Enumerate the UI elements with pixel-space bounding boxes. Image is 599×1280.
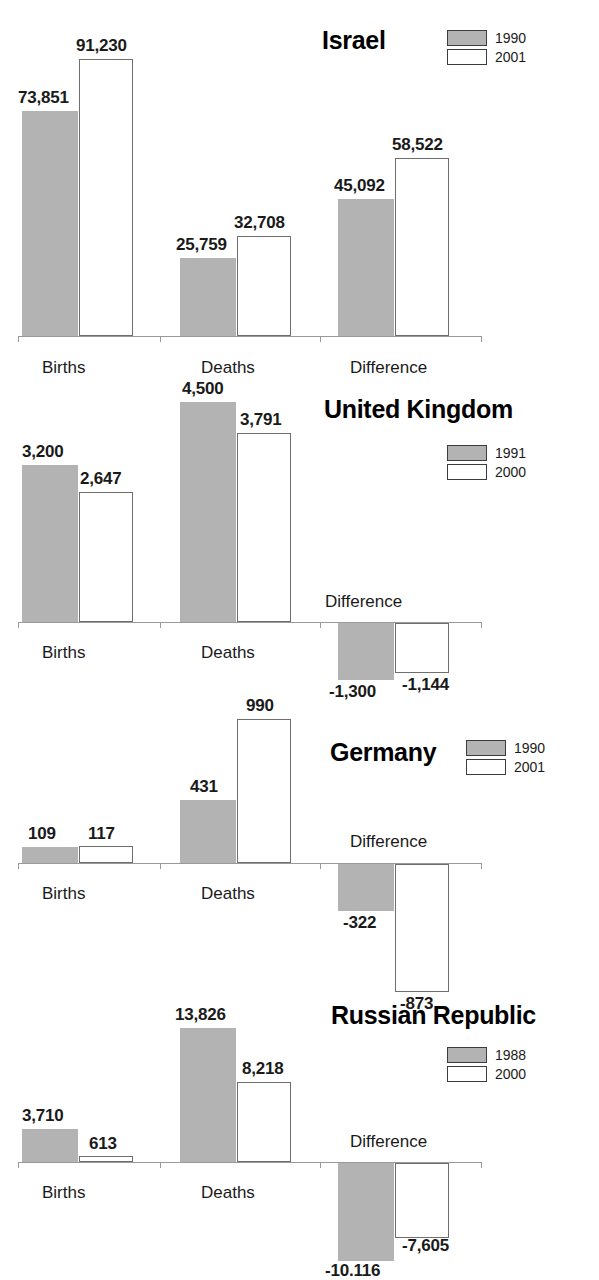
value-label-deaths-series-b: 32,708 bbox=[234, 213, 285, 232]
value-label-deaths-series-b: 8,218 bbox=[242, 1059, 284, 1078]
legend-swatch-series-a-icon bbox=[447, 1047, 487, 1063]
difference-inline-label: Difference bbox=[350, 832, 427, 852]
panel-title-israel: Israel bbox=[322, 26, 386, 54]
bar-deaths-series-a bbox=[180, 800, 236, 863]
legend-swatch-series-a-icon bbox=[447, 445, 487, 461]
axis-tick bbox=[160, 1162, 161, 1168]
difference-inline-label: Difference bbox=[325, 592, 402, 612]
panel-title-germany: Germany bbox=[330, 738, 436, 766]
legend-row: 1988 bbox=[447, 1045, 526, 1064]
category-label-births: Births bbox=[42, 643, 85, 663]
legend-swatch-series-b-icon bbox=[447, 464, 487, 480]
legend-swatch-series-a-icon bbox=[447, 30, 487, 46]
legend-swatch-series-b-icon bbox=[447, 1066, 487, 1082]
axis-tick bbox=[481, 622, 482, 628]
value-label-births-series-a: 73,851 bbox=[18, 88, 69, 107]
category-label-deaths: Deaths bbox=[201, 884, 255, 904]
bar-deaths-series-a bbox=[180, 1028, 236, 1162]
axis-tick bbox=[320, 863, 321, 869]
bar-births-series-b bbox=[79, 846, 133, 863]
legend-swatch-series-b-icon bbox=[466, 759, 506, 775]
axis-tick bbox=[481, 336, 482, 342]
bar-deaths-series-b bbox=[237, 236, 291, 336]
axis-tick bbox=[160, 336, 161, 342]
value-label-births-series-b: 2,647 bbox=[80, 469, 122, 488]
legend-label: 1988 bbox=[495, 1047, 526, 1063]
axis-tick bbox=[320, 622, 321, 628]
multi-panel-bar-chart-figure: Israel 1990 2001 73,851 91,230 25,759 32… bbox=[0, 0, 599, 1280]
legend-swatch-series-a-icon bbox=[466, 740, 506, 756]
bar-difference-series-b bbox=[395, 1163, 449, 1238]
legend-united-kingdom: 1991 2000 bbox=[447, 443, 526, 481]
legend-germany: 1990 2001 bbox=[466, 738, 545, 776]
axis-tick bbox=[160, 863, 161, 869]
value-label-births-series-b: 91,230 bbox=[76, 36, 127, 55]
axis-tick bbox=[18, 863, 19, 869]
axis-tick bbox=[18, 622, 19, 628]
axis-tick bbox=[320, 1162, 321, 1168]
legend-row: 1991 bbox=[447, 443, 526, 462]
legend-label: 2000 bbox=[495, 464, 526, 480]
value-label-births-series-a: 3,710 bbox=[22, 1106, 64, 1125]
value-label-difference-series-b: 58,522 bbox=[392, 135, 443, 154]
bar-births-series-b bbox=[79, 59, 133, 336]
bar-births-series-a bbox=[22, 111, 78, 336]
legend-label: 2001 bbox=[514, 759, 545, 775]
axis-baseline bbox=[18, 336, 482, 337]
value-label-difference-series-a: -10.116 bbox=[325, 1261, 380, 1280]
legend-row: 2000 bbox=[447, 462, 526, 481]
chart-panel-israel: Israel 1990 2001 73,851 91,230 25,759 32… bbox=[0, 0, 599, 375]
bar-births-series-b bbox=[79, 492, 133, 622]
category-label-births: Births bbox=[42, 1183, 85, 1203]
legend-label: 1990 bbox=[514, 740, 545, 756]
panel-title-united-kingdom: United Kingdom bbox=[324, 395, 513, 423]
value-label-deaths-series-a: 431 bbox=[190, 777, 218, 796]
axis-tick bbox=[18, 1162, 19, 1168]
legend-row: 1990 bbox=[447, 28, 526, 47]
legend-label: 1991 bbox=[495, 445, 526, 461]
axis-tick bbox=[481, 1162, 482, 1168]
value-label-births-series-b: 613 bbox=[89, 1134, 117, 1153]
value-label-births-series-a: 109 bbox=[28, 824, 56, 843]
bar-births-series-b bbox=[79, 1156, 133, 1162]
axis-tick bbox=[18, 336, 19, 342]
legend-row: 2001 bbox=[466, 757, 545, 776]
value-label-births-series-b: 117 bbox=[88, 824, 115, 843]
bar-deaths-series-b bbox=[237, 1082, 291, 1162]
bar-deaths-series-a bbox=[180, 402, 236, 622]
bar-difference-series-b bbox=[395, 158, 449, 336]
panel-title-russian-republic: Russian Republic bbox=[331, 1001, 536, 1029]
bar-deaths-series-b bbox=[237, 433, 291, 622]
axis-tick bbox=[160, 622, 161, 628]
value-label-births-series-a: 3,200 bbox=[22, 442, 64, 461]
bar-deaths-series-a bbox=[180, 258, 236, 336]
value-label-deaths-series-a: 13,826 bbox=[175, 1005, 226, 1024]
chart-panel-russian-republic: Russian Republic 1988 2000 3,710 613 13,… bbox=[0, 970, 599, 1280]
bar-births-series-a bbox=[22, 1129, 78, 1162]
legend-label: 2001 bbox=[495, 49, 526, 65]
value-label-deaths-series-a: 25,759 bbox=[176, 235, 227, 254]
value-label-deaths-series-b: 990 bbox=[246, 696, 274, 715]
value-label-difference-series-b: -7,605 bbox=[402, 1236, 449, 1255]
category-label-deaths: Deaths bbox=[201, 643, 255, 663]
bar-difference-series-a bbox=[338, 1163, 394, 1261]
legend-label: 1990 bbox=[495, 30, 526, 46]
bar-difference-series-a bbox=[338, 199, 394, 336]
value-label-deaths-series-b: 3,791 bbox=[240, 410, 282, 429]
axis-tick bbox=[481, 863, 482, 869]
chart-panel-united-kingdom: United Kingdom 1991 2000 3,200 2,647 4,5… bbox=[0, 375, 599, 665]
legend-label: 2000 bbox=[495, 1066, 526, 1082]
legend-russian-republic: 1988 2000 bbox=[447, 1045, 526, 1083]
value-label-difference-series-a: -322 bbox=[343, 913, 376, 932]
bar-births-series-a bbox=[22, 465, 78, 622]
bar-deaths-series-b bbox=[237, 719, 291, 863]
legend-row: 2000 bbox=[447, 1064, 526, 1083]
legend-row: 2001 bbox=[447, 47, 526, 66]
chart-panel-germany: Germany 1990 2001 109 117 431 990 Diff bbox=[0, 665, 599, 970]
bar-births-series-a bbox=[22, 847, 78, 863]
legend-israel: 1990 2001 bbox=[447, 28, 526, 66]
value-label-difference-series-a: 45,092 bbox=[334, 176, 385, 195]
value-label-deaths-series-a: 4,500 bbox=[182, 379, 224, 398]
category-label-deaths: Deaths bbox=[201, 1183, 255, 1203]
axis-tick bbox=[320, 336, 321, 342]
